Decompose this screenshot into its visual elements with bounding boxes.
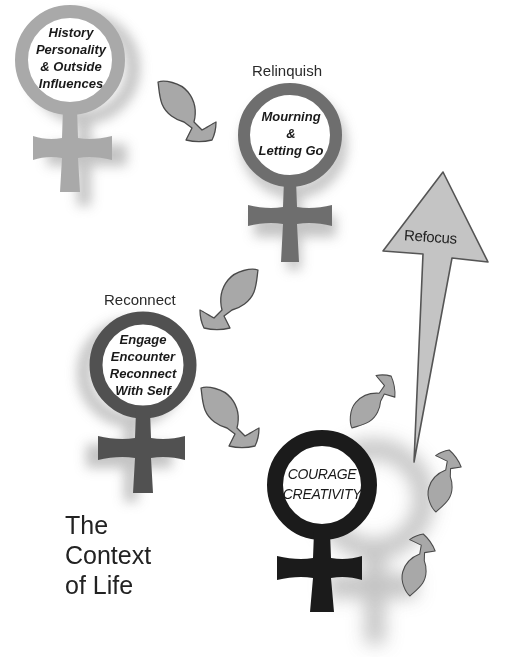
leaf-arrow-4: [343, 373, 400, 428]
context-of-life-diagram: History Personality & Outside Influences…: [0, 0, 512, 657]
leaf-arrow-1: [158, 81, 216, 141]
refocus-arrow: [383, 172, 488, 462]
relinquish-inner-text: Mourning & Letting Go: [242, 108, 340, 159]
leaf-arrow-3: [201, 387, 259, 447]
leaf-arrow-2: [200, 269, 258, 329]
diagram-title: The Context of Life: [65, 510, 151, 600]
history-inner-text: History Personality & Outside Influences: [22, 24, 120, 92]
stage-label-relinquish: Relinquish: [252, 62, 322, 79]
courage-inner-text: COURAGE CREATIVITY: [272, 464, 372, 504]
refocus-label: Refocus: [403, 226, 457, 247]
stage-label-reconnect: Reconnect: [104, 291, 176, 308]
reconnect-inner-text: Engage Encounter Reconnect With Self: [93, 331, 193, 399]
